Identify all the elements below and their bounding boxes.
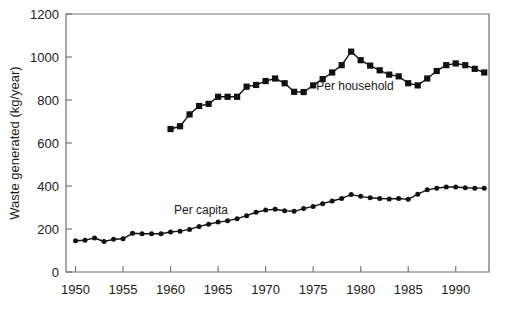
x-tick-label: 1955 — [109, 282, 138, 297]
data-point-marker — [415, 82, 421, 88]
data-point-marker — [197, 224, 202, 229]
y-axis-title: Waste generated (kg/year) — [7, 66, 22, 219]
data-point-marker — [453, 60, 459, 66]
data-point-marker — [168, 230, 173, 235]
chart-plot-area: Waste generated (kg/year) 02004006008001… — [0, 0, 505, 320]
data-point-marker — [83, 238, 88, 243]
x-tick-label: 1970 — [251, 282, 280, 297]
data-point-marker — [73, 238, 78, 243]
data-point-marker — [273, 207, 278, 212]
data-point-marker — [405, 80, 411, 86]
data-point-marker — [282, 80, 288, 86]
data-point-marker — [329, 69, 335, 75]
series-line — [76, 187, 485, 241]
data-point-marker — [358, 57, 364, 63]
y-tick-label: 200 — [37, 222, 59, 237]
data-point-marker — [462, 62, 468, 68]
x-tick-label: 1985 — [394, 282, 423, 297]
data-point-marker — [339, 62, 345, 68]
data-point-marker — [415, 192, 420, 197]
data-point-marker — [186, 111, 192, 117]
data-point-marker — [396, 196, 401, 201]
data-point-marker — [282, 208, 287, 213]
series-per-capita — [73, 185, 487, 244]
data-point-marker — [377, 67, 383, 73]
data-point-marker — [320, 201, 325, 206]
data-point-marker — [330, 199, 335, 204]
data-point-marker — [130, 231, 135, 236]
data-point-marker — [254, 210, 259, 215]
data-point-marker — [472, 66, 478, 72]
y-tick-label: 600 — [37, 136, 59, 151]
data-point-marker — [111, 237, 116, 242]
data-point-marker — [386, 72, 392, 78]
data-point-marker — [434, 68, 440, 74]
x-tick-label: 1965 — [204, 282, 233, 297]
data-point-marker — [291, 89, 297, 95]
data-point-marker — [472, 186, 477, 191]
data-point-marker — [263, 208, 268, 213]
data-point-marker — [396, 73, 402, 79]
data-point-marker — [206, 222, 211, 227]
data-point-marker — [377, 196, 382, 201]
data-point-marker — [92, 236, 97, 241]
data-point-marker — [463, 185, 468, 190]
data-point-marker — [140, 231, 145, 236]
y-tick-label: 1200 — [30, 7, 59, 22]
y-tick-label: 800 — [37, 93, 59, 108]
data-point-marker — [301, 206, 306, 211]
data-point-marker — [424, 75, 430, 81]
x-tick-label: 1990 — [441, 282, 470, 297]
data-point-marker — [348, 49, 354, 55]
data-point-marker — [358, 194, 363, 199]
y-axis-title-label: Waste generated (kg/year) — [7, 66, 22, 219]
data-point-marker — [368, 195, 373, 200]
plot-border — [66, 14, 489, 272]
data-point-marker — [177, 123, 183, 129]
axis-frame — [66, 14, 489, 272]
y-tick-label: 400 — [37, 179, 59, 194]
data-point-marker — [196, 103, 202, 109]
data-point-marker — [301, 89, 307, 95]
data-point-marker — [234, 94, 240, 100]
x-axis-ticks: 195019551960196519701975198019851990 — [61, 266, 470, 297]
series-label-per-household: Per household — [316, 79, 393, 93]
series-label-per-capita: Per capita — [174, 203, 228, 217]
data-point-marker — [159, 231, 164, 236]
data-point-marker — [444, 185, 449, 190]
data-point-marker — [235, 216, 240, 221]
data-point-marker — [481, 69, 487, 75]
data-point-marker — [339, 196, 344, 201]
data-point-marker — [215, 94, 221, 100]
waste-generation-chart: Waste generated (kg/year) 02004006008001… — [0, 0, 505, 320]
data-point-marker — [178, 229, 183, 234]
data-point-marker — [425, 187, 430, 192]
x-tick-label: 1950 — [61, 282, 90, 297]
data-point-marker — [263, 78, 269, 84]
data-point-marker — [225, 218, 230, 223]
data-point-marker — [253, 82, 259, 88]
data-point-marker — [443, 62, 449, 68]
data-point-marker — [272, 75, 278, 81]
data-point-marker — [406, 197, 411, 202]
data-point-marker — [453, 185, 458, 190]
data-point-marker — [367, 63, 373, 69]
data-point-marker — [292, 209, 297, 214]
data-point-marker — [167, 126, 173, 132]
data-point-marker — [244, 84, 250, 90]
data-point-marker — [216, 220, 221, 225]
y-tick-label: 1000 — [30, 50, 59, 65]
data-point-marker — [149, 231, 154, 236]
data-point-marker — [121, 236, 126, 241]
data-point-marker — [387, 196, 392, 201]
data-point-marker — [205, 101, 211, 107]
data-point-marker — [187, 227, 192, 232]
data-point-marker — [102, 239, 107, 244]
x-tick-label: 1975 — [299, 282, 328, 297]
data-point-marker — [482, 186, 487, 191]
data-point-marker — [225, 94, 231, 100]
x-tick-label: 1980 — [346, 282, 375, 297]
data-series-layer — [73, 49, 487, 244]
x-tick-label: 1960 — [156, 282, 185, 297]
data-point-marker — [244, 213, 249, 218]
